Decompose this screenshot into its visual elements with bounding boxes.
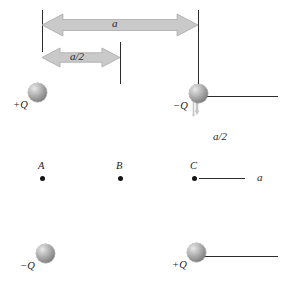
charge-top-right-label: −Q bbox=[173, 100, 188, 111]
point-b-dot bbox=[118, 176, 123, 181]
point-b-label: B bbox=[116, 160, 122, 171]
rule-point-c-horizontal bbox=[199, 178, 245, 179]
rule-mid-vertical bbox=[120, 42, 121, 84]
arrow-top-a-label: a bbox=[112, 18, 118, 29]
arrow-right-a-half-label: a/2 bbox=[213, 131, 227, 142]
point-a-dot bbox=[40, 176, 45, 181]
charge-bottom-left-label: −Q bbox=[20, 260, 35, 271]
arrow-top-a bbox=[42, 14, 198, 36]
charge-top-left-sphere bbox=[28, 83, 47, 102]
charge-configuration-diagram: aa/2a/2a ABC +Q−Q−Q+Q bbox=[0, 0, 296, 288]
rule-bottom-horizontal bbox=[203, 256, 278, 257]
arrow-right-a-label: a bbox=[257, 172, 263, 183]
point-c-label: C bbox=[190, 160, 197, 171]
arrow-top-a-half-label: a/2 bbox=[70, 51, 84, 62]
charge-bottom-left-sphere bbox=[36, 244, 55, 263]
charge-bottom-right-label: +Q bbox=[172, 259, 187, 270]
point-a-label: A bbox=[38, 160, 44, 171]
charge-bottom-right-sphere bbox=[187, 243, 206, 262]
rule-right-vertical bbox=[198, 10, 199, 84]
charge-top-left-label: +Q bbox=[13, 99, 28, 110]
point-c-dot bbox=[192, 176, 197, 181]
charge-top-right-sphere bbox=[189, 84, 208, 103]
